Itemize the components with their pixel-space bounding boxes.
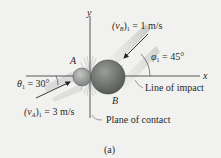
plane-of-contact-label: Plane of contact	[106, 114, 171, 125]
ball-b-label: B	[112, 95, 118, 106]
ball-a-label: A	[69, 55, 77, 66]
plane-of-contact-leader	[92, 115, 102, 120]
theta-label: θ1 = 30°	[17, 78, 50, 90]
x-axis-label: x	[202, 70, 208, 81]
figure-caption: (a)	[104, 144, 115, 156]
vb-label: (vB)1 = 1 m/s	[112, 20, 162, 32]
va-label: (vA)1 = 3 m/s	[24, 106, 74, 118]
collision-diagram: x y A B (vB)1 = 1 m/s φ1 = 45° θ1 = 30° …	[0, 0, 221, 158]
line-of-impact-label: Line of impact	[145, 82, 204, 93]
phi-label: φ1 = 45°	[151, 51, 184, 63]
diagram-canvas: x y A B (vB)1 = 1 m/s φ1 = 45° θ1 = 30° …	[0, 0, 221, 158]
ball-a	[73, 68, 91, 86]
y-axis-label: y	[86, 7, 92, 18]
line-of-impact-leader	[135, 80, 143, 88]
